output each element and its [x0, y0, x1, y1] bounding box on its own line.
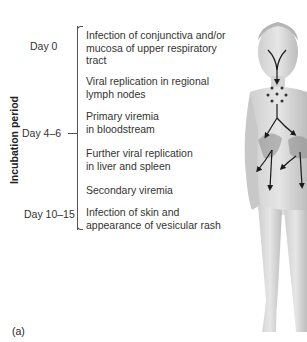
axis-label-text: Incubation period [8, 96, 20, 184]
day-4-6-tick [68, 133, 77, 134]
timeline-bracket [77, 26, 84, 230]
step-6: Infection of skin and appearance of vesi… [86, 206, 236, 231]
day-0-label: Day 0 [30, 40, 57, 52]
day-10-15-label: Day 10–15 [24, 208, 75, 220]
step-4: Further viral replication in liver and s… [86, 147, 196, 172]
step-2: Viral replication in regional lymph node… [86, 75, 236, 100]
panel-label: (a) [12, 325, 25, 337]
day-4-6-label: Day 4–6 [22, 127, 61, 139]
step-1: Infection of conjunctiva and/or mucosa o… [86, 29, 236, 67]
left-leg-shape [258, 205, 282, 332]
step-3: Primary viremia in bloodstream [86, 110, 166, 135]
child-body-illustration [236, 0, 307, 342]
incubation-period-label: Incubation period [4, 80, 24, 200]
step-5: Secondary viremia [86, 184, 236, 197]
right-leg-shape [284, 210, 307, 332]
